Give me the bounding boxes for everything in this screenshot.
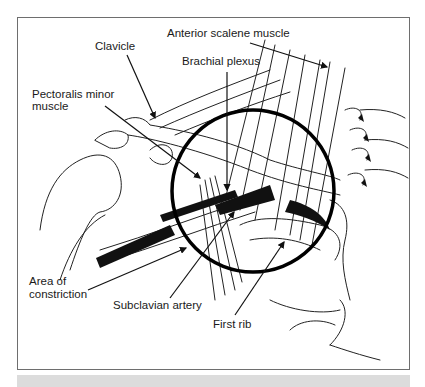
label-clavicle: Clavicle <box>95 40 135 53</box>
label-brachial-plexus: Brachial plexus <box>182 55 260 68</box>
caption-band <box>17 375 410 387</box>
label-pectoralis-minor-line2: muscle <box>32 100 68 113</box>
label-first-rib: First rib <box>213 318 251 331</box>
label-area-of-constriction-line2: constriction <box>29 288 87 301</box>
label-anterior-scalene-muscle: Anterior scalene muscle <box>167 27 290 40</box>
label-pectoralis-minor-line1: Pectoralis minor <box>32 88 114 101</box>
label-area-of-constriction-line1: Area of <box>29 275 66 288</box>
anatomy-figure: Anterior scalene muscle Clavicle Brachia… <box>0 0 425 387</box>
label-subclavian-artery: Subclavian artery <box>113 299 202 312</box>
